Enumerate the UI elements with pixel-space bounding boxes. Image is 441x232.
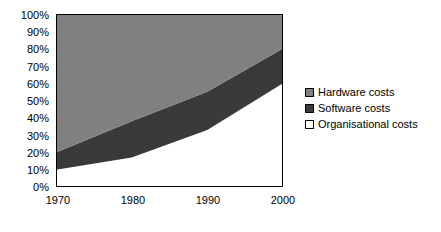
y-axis-tick-label: 50% [1, 96, 49, 107]
legend-item-organisational-costs: Organisational costs [305, 116, 437, 132]
legend-swatch-icon [305, 120, 314, 129]
y-axis-tick-label: 0% [1, 182, 49, 193]
legend-item-label: Hardware costs [318, 86, 394, 98]
chart-legend: Hardware costs Software costs Organisati… [305, 84, 437, 132]
legend-swatch-icon [305, 104, 314, 113]
stacked-area-chart: 100% 90% 80% 70% 60% 50% 40% 30% 20% 10%… [0, 0, 441, 232]
legend-item-software-costs: Software costs [305, 100, 437, 116]
y-axis-tick-label: 60% [1, 79, 49, 90]
y-axis-tick-label: 40% [1, 113, 49, 124]
plot-area [56, 14, 283, 187]
legend-item-label: Software costs [318, 102, 390, 114]
x-axis-tick-label: 1970 [28, 193, 88, 207]
y-axis-tick-label: 30% [1, 131, 49, 142]
x-axis-tick-label: 1990 [178, 193, 238, 207]
y-axis-tick-label: 20% [1, 148, 49, 159]
y-axis-tick-label: 100% [1, 10, 49, 21]
x-axis: 1970 1980 1990 2000 [0, 193, 441, 213]
legend-item-hardware-costs: Hardware costs [305, 84, 437, 100]
legend-swatch-icon [305, 88, 314, 97]
x-axis-tick-label: 2000 [253, 193, 313, 207]
y-axis-tick-label: 70% [1, 62, 49, 73]
y-axis-tick-label: 10% [1, 165, 49, 176]
y-axis-tick-label: 80% [1, 44, 49, 55]
x-axis-tick-label: 1980 [103, 193, 163, 207]
plot-svg [56, 14, 283, 187]
legend-item-label: Organisational costs [318, 118, 418, 130]
y-axis-tick-label: 90% [1, 27, 49, 38]
